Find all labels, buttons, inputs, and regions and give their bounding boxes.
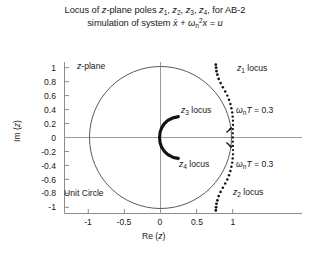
- x-axis-label: Re (z): [142, 231, 165, 241]
- omega-upper-symbol: ω: [236, 105, 243, 115]
- x-axis-label-pre: Re (: [142, 231, 158, 241]
- z4-rest: locus: [187, 159, 209, 169]
- y-tick-label: -0.8: [22, 188, 56, 198]
- z2-rest: locus: [241, 187, 263, 197]
- y-tick-label: 0.4: [22, 105, 56, 115]
- z4-locus-arc: [160, 138, 179, 159]
- y-tick-label: -1: [22, 202, 56, 212]
- y-tick-label: 1: [22, 63, 56, 73]
- annotation-z1-locus: z1 locus: [237, 63, 267, 73]
- y-tick-label: 0.6: [22, 91, 56, 101]
- y-axis-label-post: ): [12, 120, 22, 123]
- x-tick-label: 0: [143, 217, 177, 227]
- y-tick-label: 0.8: [22, 77, 56, 87]
- omega-upper-value: = 0.3: [252, 105, 274, 115]
- annotation-omega-upper: ωnT = 0.3: [236, 105, 273, 115]
- omega-lower-symbol: ω: [236, 159, 243, 169]
- z2-locus-dots: [214, 141, 234, 212]
- annotation-z4-locus: z4 locus: [179, 159, 209, 169]
- figure-container: Locus of z-plane poles z1, z2, z3, z4, f…: [0, 0, 310, 266]
- x-axis-label-post: ): [163, 231, 166, 241]
- x-tick-label: 0.5: [180, 217, 214, 227]
- annotation-z2-locus: z2 locus: [233, 187, 263, 197]
- y-tick-label: -0.2: [22, 147, 56, 157]
- z-plane-rest: -plane: [81, 61, 105, 71]
- x-tick-label: -0.5: [107, 217, 141, 227]
- y-axis-label-var: z: [12, 123, 22, 127]
- z3-rest: locus: [189, 105, 211, 115]
- y-axis-label: Im (z): [12, 101, 22, 161]
- y-axis-label-pre: Im (: [12, 127, 22, 142]
- x-tick-label: -1: [71, 217, 105, 227]
- annotation-z-plane: z-plane: [77, 61, 105, 71]
- z3-locus-arc: [160, 117, 179, 138]
- y-tick-label: -0.4: [22, 161, 56, 171]
- annotation-omega-lower: ωnT = 0.3: [236, 159, 273, 169]
- annotation-z3-locus: z3 locus: [181, 105, 211, 115]
- y-tick-label: 0.2: [22, 119, 56, 129]
- y-tick-label: 0: [22, 133, 56, 143]
- annotation-unit-circle: Unit Circle: [64, 188, 104, 198]
- omega-lower-value: = 0.3: [252, 159, 274, 169]
- z1-rest: locus: [245, 63, 267, 73]
- x-tick-label: 1: [216, 217, 250, 227]
- y-tick-label: -0.6: [22, 175, 56, 185]
